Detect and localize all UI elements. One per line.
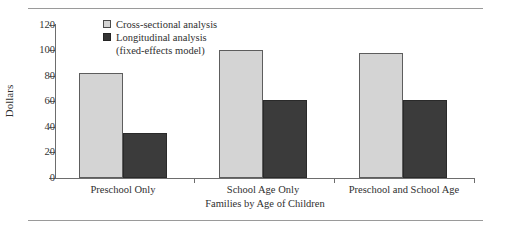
- legend-label-longitudinal: Longitudinal analysis: [116, 31, 207, 44]
- legend-label-cross-sectional: Cross-sectional analysis: [116, 18, 217, 31]
- x-category-label-preschool-and-school-age: Preschool and School Age: [333, 184, 475, 195]
- legend-item-cross-sectional: Cross-sectional analysis: [103, 18, 217, 31]
- x-tick-separator-1: [194, 178, 195, 183]
- legend-label-longitudinal-sub: (fixed-effects model): [116, 44, 217, 57]
- y-axis-title: Dollars: [3, 61, 15, 141]
- chart-legend: Cross-sectional analysis Longitudinal an…: [103, 18, 217, 57]
- x-axis-title: Families by Age of Children: [55, 198, 475, 209]
- bar-cross-sectional-school-age-only: [219, 50, 263, 178]
- y-tick-label-40: 40: [11, 122, 55, 132]
- y-axis-line: [55, 24, 56, 179]
- legend-swatch-light-icon: [103, 20, 111, 28]
- y-tick-label-0-wrap: 0: [0, 173, 55, 183]
- legend-swatch-dark-icon: [103, 33, 111, 41]
- bar-cross-sectional-preschool-and-school-age: [359, 53, 403, 178]
- y-tick-label-20: 20: [11, 147, 55, 157]
- bar-longitudinal-school-age-only: [263, 100, 307, 178]
- legend-item-longitudinal: Longitudinal analysis: [103, 31, 217, 44]
- bar-chart: 120 100 80 60 40 20 0 Dollars: [0, 0, 510, 231]
- y-tick-label-0: 0: [11, 173, 55, 183]
- y-tick-label-100: 100: [11, 45, 55, 55]
- y-tick-label-60: 60: [11, 96, 55, 106]
- y-tick-label-120-wrap: 120: [0, 20, 55, 30]
- bar-longitudinal-preschool-only: [123, 133, 167, 178]
- bar-longitudinal-preschool-and-school-age: [403, 100, 447, 178]
- x-axis-line: [55, 178, 475, 179]
- y-tick-label-100-wrap: 100: [0, 45, 55, 55]
- y-tick-label-120: 120: [11, 20, 55, 30]
- x-category-label-school-age-only: School Age Only: [193, 184, 333, 195]
- x-category-label-preschool-only: Preschool Only: [53, 184, 193, 195]
- x-tick-separator-2: [334, 178, 335, 183]
- y-tick-label-20-wrap: 20: [0, 147, 55, 157]
- y-tick-label-80: 80: [11, 71, 55, 81]
- figure-container: 120 100 80 60 40 20 0 Dollars: [0, 0, 510, 231]
- bar-cross-sectional-preschool-only: [79, 73, 123, 178]
- x-tick-separator-3: [474, 178, 475, 183]
